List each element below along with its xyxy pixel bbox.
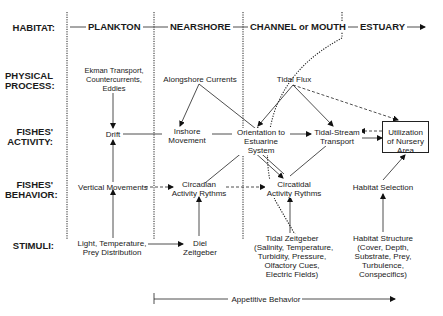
row-label-habitat: HABITAT:: [10, 23, 55, 33]
node-line: Activity Rythms: [170, 189, 228, 198]
node-drift: Drift: [103, 130, 123, 139]
node-line: Tidal-Stream: [312, 128, 362, 137]
node-line: Transport: [312, 137, 362, 146]
habitat-channel-mouth: CHANNEL or MOUTH: [248, 21, 348, 32]
node-line: Turbidity, Pressure,: [254, 252, 330, 261]
row-label-fishes-behavior: FISHES' BEHAVIOR:: [5, 180, 53, 200]
node-line: Tidal Zeitgeber: [254, 234, 330, 243]
node-line: Olfactory Cues,: [254, 261, 330, 270]
row-label-line: BEHAVIOR:: [5, 190, 53, 200]
habitat-nearshore: NEARSHORE: [168, 21, 233, 32]
node-utilization-nursery-area: Utilization of Nursery Area: [382, 121, 429, 153]
node-vertical-movements: Vertical Movements: [78, 183, 144, 192]
node-line: Countercurrents,: [78, 75, 150, 84]
node-line: Diel: [182, 239, 218, 248]
row-label-line: PROCESS:: [5, 81, 51, 91]
node-line: (Salinity, Temperature,: [254, 243, 330, 252]
appetitive-behavior-label: Appetitive Behavior: [230, 295, 302, 304]
node-line: Substrate, Prey,: [350, 252, 416, 261]
node-tidal-flux: Tidal Flux: [272, 75, 316, 84]
node-tidal-stream-transport: Tidal-Stream Transport: [312, 128, 362, 146]
node-line: Orientation to: [232, 128, 290, 137]
node-line: Light, Temperature,: [76, 239, 148, 248]
row-label-line: ACTIVITY:: [5, 137, 53, 147]
node-line: Ekman Transport,: [78, 66, 150, 75]
row-label-stimuli: STIMULI:: [10, 241, 54, 251]
node-line: Zeitgeber: [182, 248, 218, 257]
node-line: Estuarine: [232, 137, 290, 146]
row-label-fishes-activity: FISHES' ACTIVITY:: [5, 127, 53, 147]
node-orientation-estuarine-system: Orientation to Estuarine System: [232, 128, 290, 155]
node-line: Movement: [162, 136, 212, 145]
node-diel-zeitgeber: Diel Zeitgeber: [182, 239, 218, 257]
node-line: of Nursery: [383, 137, 428, 146]
node-line: Activity Rythms: [265, 189, 323, 198]
node-line: Inshore: [162, 127, 212, 136]
node-line: Turbulence,: [350, 261, 416, 270]
node-habitat-structure: Habitat Structure (Cover, Depth, Substra…: [350, 234, 416, 279]
node-line: System: [232, 146, 290, 155]
node-line: Habitat Structure: [350, 234, 416, 243]
node-ekman-transport: Ekman Transport, Countercurrents, Eddies: [78, 66, 150, 93]
node-light-temperature-prey: Light, Temperature, Prey Distribution: [76, 239, 148, 257]
node-circadian-activity-rythms: Circadian Activity Rythms: [170, 180, 228, 198]
node-circatidal-activity-rythms: Circatidal Activity Rythms: [265, 180, 323, 198]
node-line: Eddies: [78, 84, 150, 93]
node-alongshore-currents: Alongshore Currents: [160, 75, 240, 84]
habitat-estuary: ESTUARY: [358, 21, 407, 32]
node-line: Electric Fields): [254, 270, 330, 279]
node-line: Circatidal: [265, 180, 323, 189]
node-line: Prey Distribution: [76, 248, 148, 257]
node-line: Utilization: [383, 128, 428, 137]
node-line: Conspecifics): [350, 270, 416, 279]
node-tidal-zeitgeber: Tidal Zeitgeber (Salinity, Temperature, …: [254, 234, 330, 279]
node-line: (Cover, Depth,: [350, 243, 416, 252]
node-line: Circadian: [170, 180, 228, 189]
node-habitat-selection: Habitat Selection: [350, 183, 416, 192]
row-label-physical-process: PHYSICAL PROCESS:: [5, 71, 51, 91]
node-inshore-movement: Inshore Movement: [162, 127, 212, 145]
node-line: Area: [383, 146, 428, 155]
habitat-plankton: PLANKTON: [86, 21, 143, 32]
